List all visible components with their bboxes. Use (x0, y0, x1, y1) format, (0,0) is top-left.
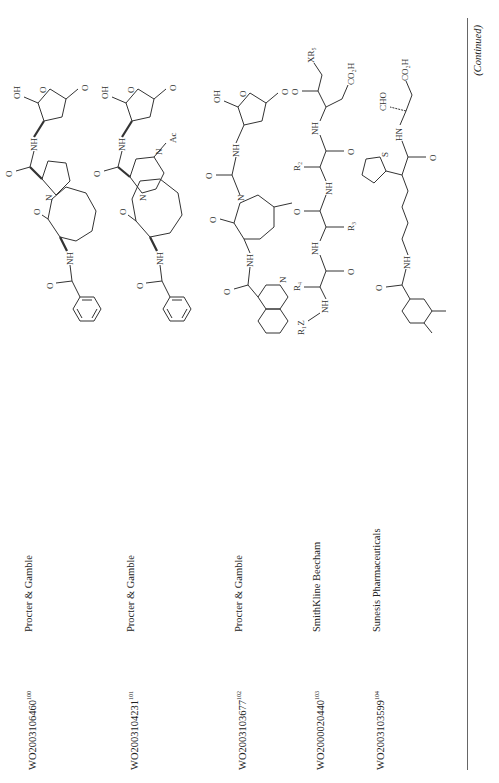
svg-text:XR₅: XR₅ (306, 47, 316, 63)
svg-text:O: O (222, 288, 232, 295)
company-name: SmithKline Beecham (310, 542, 324, 632)
svg-text:O: O (280, 88, 290, 95)
company-name: Sunesis Pharmaceuticals (370, 528, 384, 632)
svg-text:NH: NH (155, 252, 165, 265)
svg-text:R₄: R₄ (292, 282, 302, 291)
svg-text:O: O (118, 208, 128, 215)
svg-text:NH: NH (231, 144, 241, 157)
svg-text:O: O (80, 84, 90, 91)
svg-text:O: O (204, 172, 214, 179)
svg-text:HN: HN (394, 128, 404, 141)
svg-text:NH: NH (310, 242, 320, 255)
svg-text:O: O (4, 170, 14, 177)
svg-text:O: O (38, 86, 48, 93)
svg-text:N: N (236, 194, 246, 201)
svg-text:OH: OH (212, 90, 222, 103)
svg-text:R₁Z: R₁Z (296, 320, 306, 335)
patent-number: WO2003106460100 (22, 691, 40, 770)
svg-text:O: O (428, 154, 438, 161)
svg-text:Ac: Ac (168, 133, 178, 144)
patent-number: WO2003103599104 (370, 691, 388, 770)
svg-text:NH: NH (402, 256, 412, 269)
svg-text:N: N (44, 194, 54, 201)
svg-text:O: O (126, 86, 136, 93)
svg-text:O: O (208, 216, 218, 223)
svg-text:NH: NH (324, 182, 334, 195)
svg-text:CO₂H: CO₂H (400, 58, 410, 81)
svg-text:O: O (135, 282, 145, 289)
svg-text:R₂: R₂ (292, 162, 302, 171)
reference-superscript: 104 (374, 691, 380, 700)
company-name: Procter & Gamble (232, 555, 246, 632)
svg-text:N: N (278, 276, 288, 283)
svg-text:S: S (380, 152, 390, 157)
svg-text:NH: NH (310, 122, 320, 135)
svg-text:NH: NH (245, 254, 255, 267)
patent-number: WO2003104231101 (124, 691, 142, 770)
chemical-structure: R₁Z NH R₄ O NH R₃ O NH R₂ O NH CO₂H O XR… (290, 23, 374, 343)
svg-text:O: O (346, 268, 356, 275)
svg-text:OH: OH (100, 86, 110, 99)
svg-text:NH: NH (117, 138, 127, 151)
svg-text:NH: NH (65, 252, 75, 265)
chemical-structure: O NH S O HN CHO CO₂H (370, 23, 464, 343)
svg-text:R₃: R₃ (346, 222, 356, 231)
patent-number: WO2000020440103 (310, 691, 328, 770)
svg-text:NH: NH (320, 300, 330, 313)
svg-text:OH: OH (12, 86, 22, 99)
company-name: Procter & Gamble (124, 555, 138, 632)
svg-text:O: O (290, 88, 300, 95)
svg-text:CHO: CHO (378, 91, 388, 111)
svg-text:O: O (45, 282, 55, 289)
svg-text:O: O (92, 170, 102, 177)
svg-text:O: O (374, 284, 384, 291)
table-bottom-rule (467, 18, 468, 770)
svg-text:O: O (346, 148, 356, 155)
continued-label: (Continued) (472, 25, 483, 76)
reference-superscript: 100 (26, 691, 32, 700)
svg-text:N: N (138, 194, 148, 201)
reference-superscript: 103 (314, 691, 320, 700)
reference-superscript: 101 (128, 691, 134, 700)
patent-number: WO2003103677102 (232, 691, 250, 770)
rotated-table-page: WO2003106460100 Procter & Gamble O NH O … (0, 0, 499, 783)
reference-superscript: 102 (236, 691, 242, 700)
chemical-structure: O NH O N NAc O NH O OH O (90, 23, 204, 343)
svg-text:CO₂H: CO₂H (346, 62, 356, 85)
svg-text:O: O (32, 208, 42, 215)
svg-text:O: O (168, 84, 178, 91)
svg-text:O: O (238, 90, 248, 97)
company-name: Procter & Gamble (22, 555, 36, 632)
svg-text:O: O (292, 208, 302, 215)
svg-text:NH: NH (29, 138, 39, 151)
